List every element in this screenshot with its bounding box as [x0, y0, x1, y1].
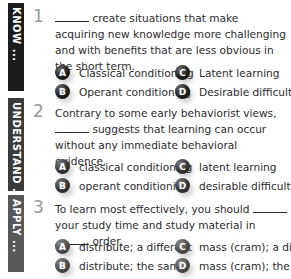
option-c[interactable]: C latent learning: [175, 159, 277, 174]
option-a[interactable]: A classical conditioning: [55, 159, 192, 174]
section-label-apply: APPLY ...: [8, 195, 24, 272]
option-a[interactable]: A distribute; a different: [55, 239, 192, 254]
option-letter-icon: A: [55, 239, 70, 254]
section-label-text: KNOW ...: [10, 7, 22, 62]
option-letter-icon: A: [55, 65, 70, 80]
option-d[interactable]: D Desirable difficulties: [175, 84, 291, 99]
option-letter-icon: B: [55, 258, 70, 273]
question-number: 3: [33, 197, 44, 217]
option-c[interactable]: C Latent learning: [175, 65, 280, 80]
option-letter-icon: A: [55, 159, 70, 174]
section-label-text: UNDERSTAND ...: [10, 102, 22, 201]
answer-blank: [253, 202, 287, 213]
option-b[interactable]: B distribute; the same: [55, 258, 186, 273]
section-label-know: KNOW ...: [8, 3, 24, 91]
option-letter-icon: D: [175, 178, 190, 193]
option-d[interactable]: D desirable difficulties: [175, 178, 291, 193]
option-letter-icon: C: [175, 159, 190, 174]
question-number: 1: [33, 6, 44, 26]
option-letter-icon: C: [175, 239, 190, 254]
option-letter-icon: B: [55, 84, 70, 99]
option-d[interactable]: D mass (cram); the same: [175, 258, 291, 273]
section-label-text: APPLY ...: [10, 199, 22, 253]
option-letter-icon: D: [175, 84, 190, 99]
answer-blank: [55, 11, 89, 22]
option-letter-icon: C: [175, 65, 190, 80]
option-a[interactable]: A Classical conditioning: [55, 65, 194, 80]
option-b[interactable]: B Operant conditioning: [55, 84, 191, 99]
option-c[interactable]: C mass (cram); a different: [175, 239, 291, 254]
section-label-understand: UNDERSTAND ...: [8, 98, 24, 191]
option-b[interactable]: B operant conditioning: [55, 178, 189, 193]
question-number: 2: [33, 101, 44, 121]
answer-blank: [55, 122, 89, 133]
option-letter-icon: B: [55, 178, 70, 193]
option-letter-icon: D: [175, 258, 190, 273]
